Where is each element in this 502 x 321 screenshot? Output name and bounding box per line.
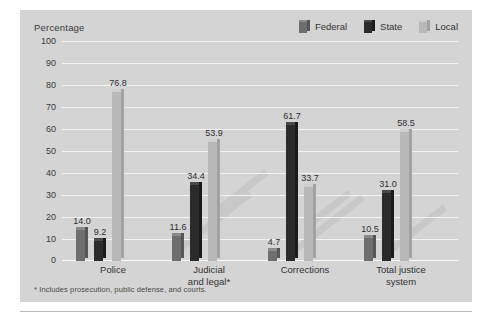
category-label-total: Total justice system (356, 264, 446, 288)
bar-value-label: 34.4 (187, 171, 205, 181)
bar-total-local[interactable]: 58.5 (400, 132, 412, 261)
y-tick-label: 80 (46, 80, 56, 90)
y-axis-title: Percentage (34, 22, 85, 33)
y-tick-label: 50 (46, 146, 56, 156)
bar-value-label: 11.6 (170, 222, 187, 232)
legend-label-local: Local (435, 21, 458, 32)
y-tick-label: 10 (46, 234, 56, 244)
category-label-corrections: Corrections (260, 264, 350, 276)
y-tick-label: 40 (46, 168, 56, 178)
bar-police-local[interactable]: 76.8 (112, 92, 124, 261)
legend-item-federal: Federal (299, 20, 347, 33)
bar-corrections-local[interactable]: 33.7 (304, 187, 316, 261)
bar-group-corrections: 4.7 61.7 33.7 (268, 41, 344, 261)
bar-corrections-state[interactable]: 61.7 (286, 125, 298, 261)
bar-total-state[interactable]: 31.0 (382, 193, 394, 261)
bar-value-label: 31.0 (379, 179, 397, 189)
category-label-police: Police (68, 264, 158, 276)
bar-value-label: 76.8 (109, 78, 127, 88)
plot-area: 100 90 80 70 60 50 40 30 (62, 41, 458, 261)
legend-label-state: State (380, 21, 402, 32)
bar-value-label: 10.5 (361, 224, 379, 234)
legend-item-local: Local (419, 20, 458, 33)
legend-label-federal: Federal (315, 21, 347, 32)
bottom-divider (20, 311, 472, 312)
bar-group-judicial: 11.6 34.4 53.9 (172, 41, 248, 261)
bar-value-label: 61.7 (283, 111, 301, 121)
y-tick-label: 30 (46, 190, 56, 200)
bar-judicial-local[interactable]: 53.9 (208, 142, 220, 261)
legend-swatch-state (364, 20, 375, 33)
y-tick-label: 90 (46, 58, 56, 68)
bar-police-state[interactable]: 9.2 (94, 241, 106, 261)
legend: Federal State Local (299, 20, 458, 33)
y-tick-label: 20 (46, 212, 56, 222)
figure: Percentage Federal State (0, 0, 502, 321)
bar-police-federal[interactable]: 14.0 (76, 230, 88, 261)
y-tick-label: 100 (41, 36, 56, 46)
bar-corrections-federal[interactable]: 4.7 (268, 251, 280, 261)
bar-value-label: 9.2 (94, 227, 107, 237)
legend-swatch-federal (299, 20, 310, 33)
bar-value-label: 58.5 (397, 118, 415, 128)
bar-value-label: 14.0 (73, 216, 91, 226)
bar-total-federal[interactable]: 10.5 (364, 238, 376, 261)
y-tick-label: 0 (51, 255, 56, 265)
bar-judicial-state[interactable]: 34.4 (190, 185, 202, 261)
chart-panel: Percentage Federal State (20, 10, 472, 302)
bar-value-label: 33.7 (301, 173, 319, 183)
bar-group-total: 10.5 31.0 58.5 (364, 41, 440, 261)
footnote: * Includes prosecution, public defense, … (34, 285, 207, 294)
bar-judicial-federal[interactable]: 11.6 (172, 236, 184, 262)
bar-group-police: 14.0 9.2 76.8 (76, 41, 152, 261)
y-tick-label: 60 (46, 124, 56, 134)
bar-value-label: 4.7 (268, 237, 281, 247)
legend-swatch-local (419, 20, 430, 33)
bar-value-label: 53.9 (205, 128, 223, 138)
y-tick-label: 70 (46, 102, 56, 112)
legend-item-state: State (364, 20, 402, 33)
